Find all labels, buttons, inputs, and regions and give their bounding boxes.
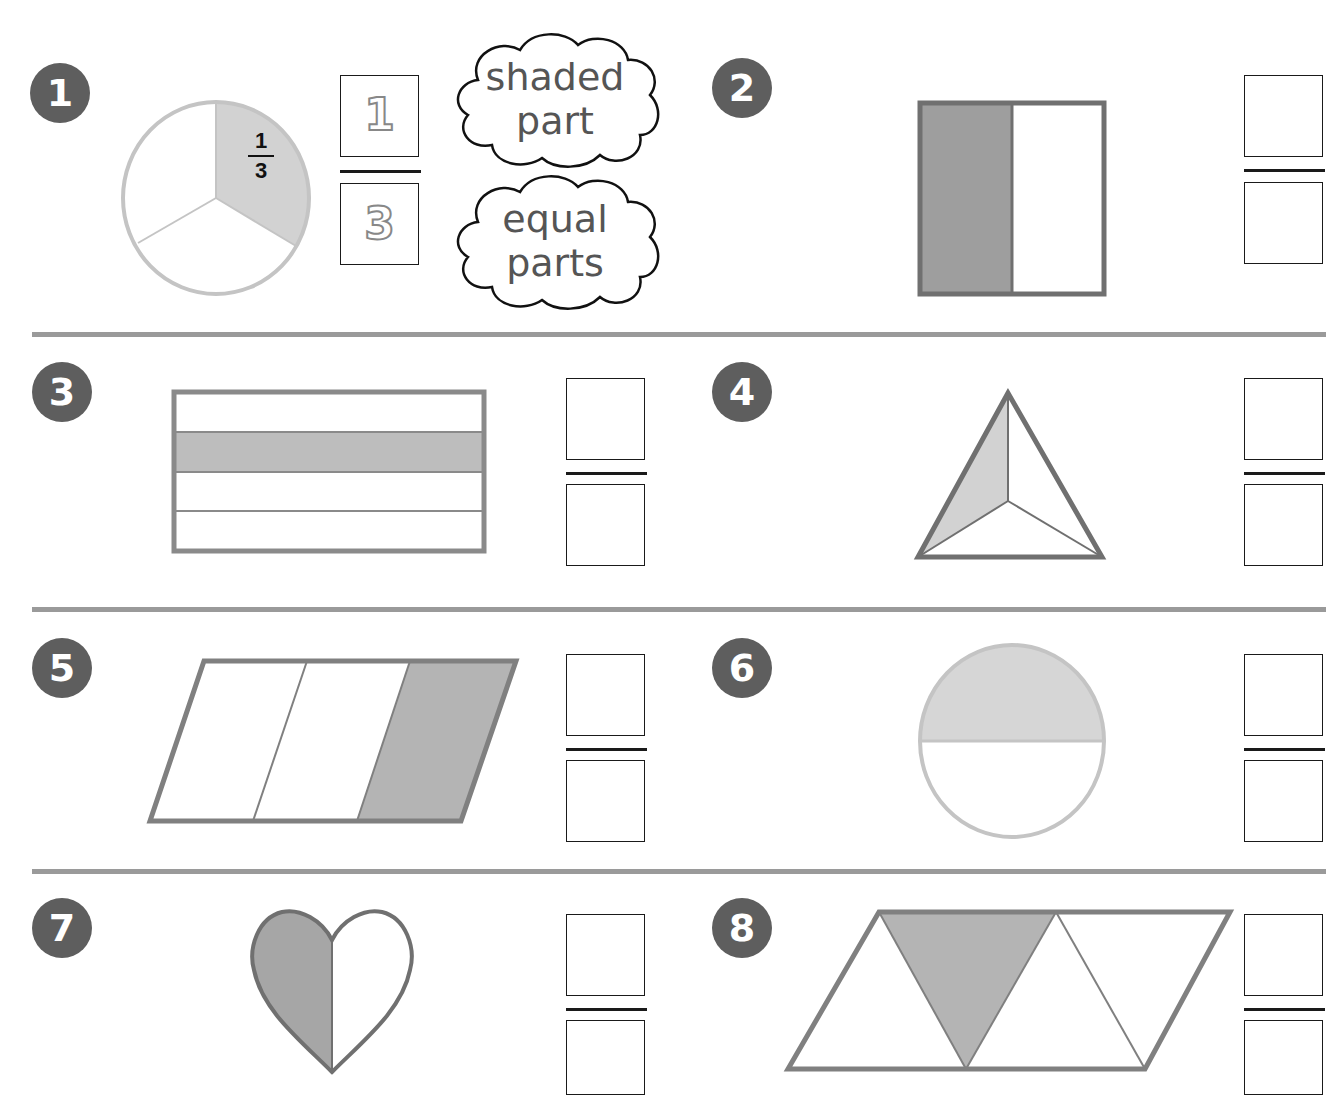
answer-fraction-line-4 [1244,472,1325,475]
answer-denominator-box-6[interactable] [1244,760,1323,842]
answer-numerator-box-5[interactable] [566,654,645,736]
cloud-word-parts: parts [455,241,655,285]
triangles-parallelogram-shape [788,912,1230,1069]
problem-number-1: 1 [30,63,90,123]
answer-fraction-line-5 [566,748,647,751]
answer-numerator-box-8[interactable] [1244,914,1323,996]
answer-numerator-box-7[interactable] [566,914,645,996]
answer-fraction-line-6 [1244,748,1325,751]
answer-denominator-box-5[interactable] [566,760,645,842]
answer-denominator-box-1[interactable]: 3 [340,183,419,265]
fraction-bar [248,155,274,157]
example-numerator: 1 [246,128,276,154]
example-fraction-label: 1 3 [246,128,276,184]
traced-denominator: 3 [341,184,418,264]
parallelogram-thirds-shape [150,661,516,821]
cloud-bottom-text: equal parts [455,197,655,285]
problem-number-3: 3 [32,362,92,422]
circle-thirds-shape [123,102,309,294]
traced-numerator: 1 [341,76,418,154]
answer-denominator-box-8[interactable] [1244,1020,1323,1095]
answer-fraction-line-8 [1244,1008,1325,1011]
answer-numerator-box-3[interactable] [566,378,645,460]
problem-number-4: 4 [712,362,772,422]
cloud-word-shaded: shaded [455,55,655,99]
problem-number-6: 6 [712,638,772,698]
triangle-thirds-shape [918,393,1102,557]
answer-fraction-line-7 [566,1008,647,1011]
cloud-top-text: shaded part [455,55,655,143]
answer-numerator-box-6[interactable] [1244,654,1323,736]
answer-denominator-box-3[interactable] [566,484,645,566]
cloud-word-equal: equal [455,197,655,241]
answer-numerator-box-2[interactable] [1244,75,1323,157]
rectangle-halves-shape [920,103,1104,294]
circle-halves-shape [920,645,1104,837]
heart-halves-shape [252,911,411,1072]
answer-denominator-box-2[interactable] [1244,182,1323,264]
answer-denominator-box-7[interactable] [566,1020,645,1095]
answer-fraction-line-2 [1244,169,1325,172]
answer-fraction-line-3 [566,472,647,475]
answer-numerator-box-1[interactable]: 1 [340,75,419,157]
answer-denominator-box-4[interactable] [1244,484,1323,566]
answer-fraction-line-1 [340,170,421,173]
problem-number-7: 7 [32,898,92,958]
cloud-word-part: part [455,99,655,143]
problem-number-2: 2 [712,58,772,118]
rectangle-fourths-shape [174,392,484,551]
problem-number-8: 8 [712,898,772,958]
example-denominator: 3 [246,158,276,184]
answer-numerator-box-4[interactable] [1244,378,1323,460]
problem-number-5: 5 [32,638,92,698]
